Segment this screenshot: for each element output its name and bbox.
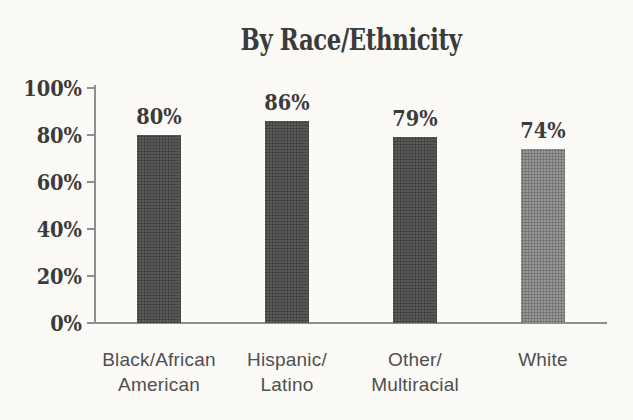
y-tick-mark bbox=[87, 134, 95, 136]
chart-figure: By Race/Ethnicity 100%80%60%40%20%0% 80%… bbox=[0, 0, 633, 420]
y-tick-label: 0% bbox=[10, 310, 82, 336]
y-tick-mark bbox=[87, 322, 95, 324]
bar-value-label: 86% bbox=[247, 89, 326, 115]
y-axis-line bbox=[94, 85, 96, 323]
bar-value-label: 80% bbox=[119, 103, 198, 129]
y-tick-mark bbox=[87, 87, 95, 89]
bar bbox=[521, 149, 565, 323]
y-tick-mark bbox=[87, 181, 95, 183]
bar bbox=[265, 121, 309, 323]
y-tick-label: 80% bbox=[10, 122, 82, 148]
x-tick-label: White bbox=[465, 347, 621, 372]
bar bbox=[137, 135, 181, 323]
bar bbox=[393, 137, 437, 323]
bar-value-label: 79% bbox=[375, 105, 454, 131]
y-tick-mark bbox=[87, 275, 95, 277]
y-tick-label: 100% bbox=[10, 75, 82, 101]
y-tick-label: 20% bbox=[10, 263, 82, 289]
chart-title: By Race/Ethnicity bbox=[156, 21, 545, 61]
bar-value-label: 74% bbox=[503, 117, 582, 143]
y-tick-label: 40% bbox=[10, 216, 82, 242]
y-tick-mark bbox=[87, 228, 95, 230]
y-tick-label: 60% bbox=[10, 169, 82, 195]
